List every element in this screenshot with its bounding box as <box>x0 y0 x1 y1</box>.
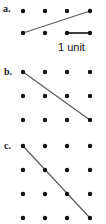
part-label-a: a. <box>3 4 11 14</box>
lattice-dot <box>21 192 25 196</box>
slope-line-b <box>23 72 90 120</box>
one-unit-caption: 1 unit <box>58 41 85 53</box>
lattice-dot <box>43 144 47 148</box>
lattice-part-b <box>21 70 92 122</box>
lattice-part-c <box>21 144 92 220</box>
lattice-dot <box>65 192 69 196</box>
lattice-dot <box>65 118 69 122</box>
slope-line-a <box>23 11 90 33</box>
lattice-dot <box>65 216 69 220</box>
lattice-dot <box>65 94 69 98</box>
lattice-dot <box>88 94 92 98</box>
lattice-dot <box>43 70 47 74</box>
lattice-part-a <box>21 9 92 35</box>
lattice-dot <box>88 70 92 74</box>
lattice-dot <box>21 9 25 13</box>
lattice-dot <box>65 144 69 148</box>
lattice-dot <box>65 70 69 74</box>
lattice-dot <box>88 31 92 35</box>
lattice-dot <box>88 118 92 122</box>
lattice-dot <box>21 168 25 172</box>
lattice-dot <box>65 168 69 172</box>
lattice-dot <box>88 192 92 196</box>
part-label-c: c. <box>4 141 11 151</box>
lattice-dot <box>43 192 47 196</box>
lattice-dot <box>88 216 92 220</box>
part-label-b: b. <box>4 67 12 77</box>
lattice-dot <box>88 144 92 148</box>
lattice-dot <box>65 9 69 13</box>
lattice-dot <box>43 216 47 220</box>
lattice-dot <box>43 9 47 13</box>
lattice-graphics <box>0 0 106 224</box>
lattice-dot <box>21 31 25 35</box>
lattice-dot <box>43 94 47 98</box>
lattice-dot <box>21 216 25 220</box>
figure-canvas: a. b. c. 1 unit <box>0 0 106 224</box>
lattice-dot <box>43 168 47 172</box>
lattice-dot <box>88 9 92 13</box>
lattice-dot <box>43 31 47 35</box>
lattice-dot <box>88 168 92 172</box>
lattice-dot <box>21 94 25 98</box>
lattice-dot <box>43 118 47 122</box>
lattice-dot <box>65 31 69 35</box>
lattice-dot <box>21 118 25 122</box>
lattice-dot <box>21 144 25 148</box>
slope-line-c <box>23 146 90 218</box>
lattice-dot <box>21 70 25 74</box>
